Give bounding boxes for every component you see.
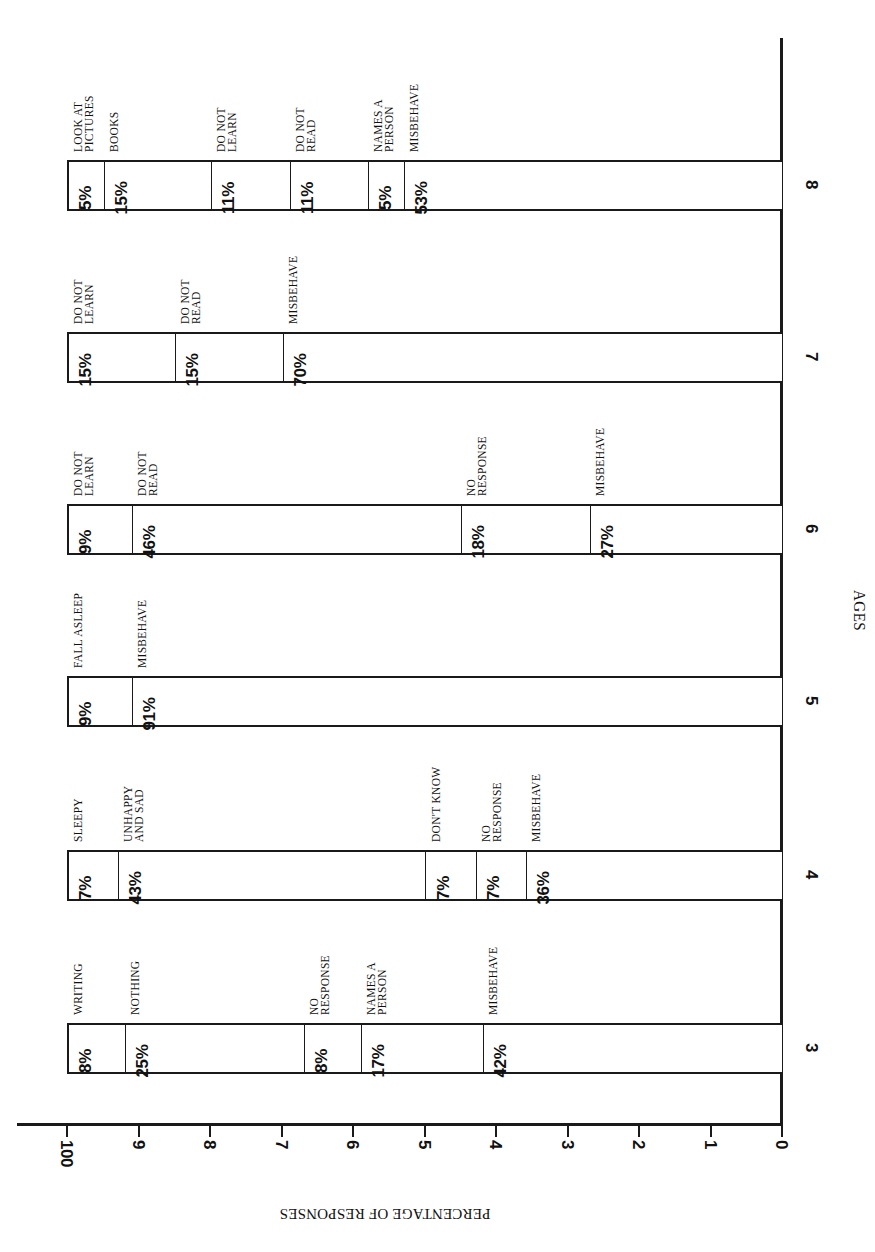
- age-tick-label: 5: [803, 696, 820, 705]
- segment-value: 9%: [77, 702, 94, 726]
- percentage-axis-line: [17, 1123, 783, 1126]
- tick-mark: [781, 1125, 783, 1137]
- tick-label: 1: [702, 1140, 719, 1149]
- segment-value: 27%: [599, 525, 616, 558]
- segment-label: FALL ASLEEP: [73, 593, 84, 668]
- segment-value: 15%: [77, 353, 94, 386]
- segment-value: 36%: [535, 871, 552, 904]
- bar-segment: 9%: [69, 506, 133, 553]
- x-axis-title: AGES: [849, 590, 868, 631]
- segment-label: MISBEHAVE: [531, 774, 542, 842]
- tick-label: 5: [416, 1140, 433, 1149]
- segment-value: 7%: [485, 876, 502, 900]
- tick-label: 9: [130, 1140, 147, 1149]
- tick-mark: [281, 1125, 283, 1137]
- bar-segment: 17%: [362, 1025, 484, 1072]
- bar-segment: 70%: [284, 334, 785, 381]
- segment-label: NAMES A PERSON: [366, 962, 388, 1015]
- bar-age-5: 9%91%: [67, 676, 782, 727]
- bar-segment: 43%: [119, 852, 426, 899]
- segment-label: NO RESPONSE: [466, 436, 488, 496]
- bar-segment: 8%: [305, 1025, 362, 1072]
- segment-value: 8%: [77, 1049, 94, 1073]
- segment-label: NOTHING: [130, 961, 141, 1015]
- segment-value: 70%: [292, 353, 309, 386]
- segment-label: DO NOT READ: [137, 451, 159, 496]
- segment-label: SLEEPY: [73, 798, 84, 842]
- bar-segment: 15%: [105, 162, 212, 209]
- segment-value: 7%: [77, 876, 94, 900]
- segment-value: 15%: [184, 353, 201, 386]
- tick-label: 0: [773, 1140, 790, 1149]
- segment-label: NO RESPONSE: [309, 955, 331, 1015]
- bar-segment: 9%: [69, 678, 133, 725]
- bar-segment: 25%: [126, 1025, 305, 1072]
- segment-value: 17%: [370, 1044, 387, 1077]
- tick-label: 2: [630, 1140, 647, 1149]
- segment-value: 53%: [413, 181, 430, 214]
- tick-mark: [638, 1125, 640, 1137]
- segment-label: DO NOT READ: [295, 107, 317, 152]
- segment-value: 91%: [141, 697, 158, 730]
- segment-label: MISBEHAVE: [409, 84, 420, 152]
- bar-segment: 15%: [69, 334, 176, 381]
- bar-segment: 42%: [484, 1025, 784, 1072]
- segment-label: NO RESPONSE: [481, 782, 503, 842]
- segment-label: MISBEHAVE: [288, 256, 299, 324]
- tick-label: 100: [58, 1140, 75, 1167]
- age-tick-label: 7: [803, 352, 820, 361]
- bar-segment: 15%: [176, 334, 283, 381]
- segment-label: DO NOT LEARN: [216, 107, 238, 152]
- tick-mark: [567, 1125, 569, 1137]
- bar-age-7: 15%15%70%: [67, 332, 782, 383]
- tick-mark: [66, 1125, 68, 1137]
- segment-value: 25%: [134, 1044, 151, 1077]
- tick-label: 4: [487, 1140, 504, 1149]
- tick-label: 3: [559, 1140, 576, 1149]
- stacked-bar-chart: 0123456789100 WRITINGNOTHINGNO RESPONSEN…: [0, 0, 875, 1252]
- age-tick-label: 8: [803, 180, 820, 189]
- tick-mark: [209, 1125, 211, 1137]
- bar-segment: 18%: [462, 506, 591, 553]
- bar-segment: 27%: [591, 506, 784, 553]
- segment-value: 46%: [141, 525, 158, 558]
- bar-segment: 53%: [405, 162, 784, 209]
- tick-label: 6: [344, 1140, 361, 1149]
- bar-segment: 7%: [477, 852, 527, 899]
- segment-label: MISBEHAVE: [595, 428, 606, 496]
- bar-segment: 5%: [369, 162, 405, 209]
- segment-value: 11%: [220, 181, 237, 213]
- bar-age-8: 5%15%11%11%5%53%: [67, 160, 782, 211]
- segment-value: 5%: [377, 186, 394, 210]
- segment-label: LOOK AT PICTURES: [73, 95, 95, 152]
- age-tick-label: 6: [803, 524, 820, 533]
- tick-mark: [710, 1125, 712, 1137]
- tick-label: 7: [273, 1140, 290, 1149]
- segment-value: 7%: [435, 876, 452, 900]
- segment-value: 9%: [77, 530, 94, 554]
- segment-label: DON'T KNOW: [431, 767, 442, 842]
- segment-value: 11%: [299, 181, 316, 213]
- tick-label: 8: [201, 1140, 218, 1149]
- bar-segment: 11%: [212, 162, 291, 209]
- segment-label: BOOKS: [109, 112, 120, 152]
- y-axis-title: PERCENTAGE OF RESPONSES: [225, 1205, 545, 1222]
- bar-segment: 91%: [133, 678, 784, 725]
- age-tick-label: 3: [803, 1043, 820, 1052]
- bar-segment: 7%: [69, 852, 119, 899]
- bar-segment: 11%: [291, 162, 370, 209]
- segment-value: 15%: [113, 181, 130, 214]
- age-tick-label: 4: [803, 870, 820, 879]
- tick-mark: [352, 1125, 354, 1137]
- segment-label: DO NOT LEARN: [73, 279, 95, 324]
- bar-age-6: 9%46%18%27%: [67, 504, 782, 555]
- segment-label: UNHAPPY AND SAD: [123, 786, 145, 842]
- bar-segment: 7%: [427, 852, 477, 899]
- segment-label: MISBEHAVE: [488, 947, 499, 1015]
- bar-segment: 36%: [527, 852, 784, 899]
- bar-segment: 5%: [69, 162, 105, 209]
- tick-mark: [138, 1125, 140, 1137]
- segment-label: DO NOT LEARN: [73, 451, 95, 496]
- segment-value: 42%: [492, 1044, 509, 1077]
- segment-value: 5%: [77, 186, 94, 210]
